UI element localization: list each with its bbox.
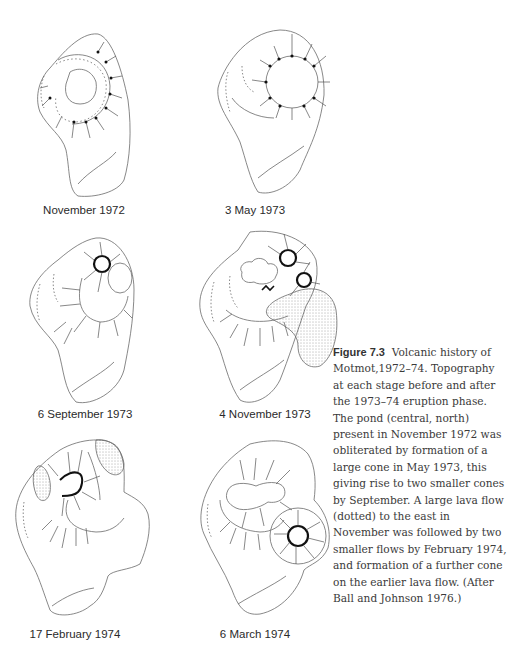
map-panel-17-february-1974: 17 February 1974 bbox=[0, 430, 190, 650]
panel-label: 17 February 1974 bbox=[20, 628, 130, 640]
island-map-4-november-1973 bbox=[180, 210, 340, 415]
panel-label: 4 November 1973 bbox=[190, 408, 340, 420]
island-map-17-february-1974 bbox=[0, 430, 190, 635]
figure-number: Figure 7.3 bbox=[333, 346, 385, 358]
map-panel-6-september-1973: 6 September 1973 bbox=[0, 210, 180, 430]
island-map-6-september-1973 bbox=[0, 210, 180, 415]
map-panel-6-march-1974: 6 March 1974 bbox=[180, 430, 340, 650]
island-map-3-may-1973 bbox=[180, 0, 330, 210]
island-map-6-march-1974 bbox=[180, 430, 340, 635]
panel-label: 6 September 1973 bbox=[20, 408, 150, 420]
figure-caption: Figure 7.3 Volcanic history of Motmot,19… bbox=[333, 344, 507, 607]
panel-label: 6 March 1974 bbox=[200, 628, 310, 640]
map-panel-november-1972: November 1972 bbox=[0, 0, 180, 220]
island-map-november-1972 bbox=[0, 0, 180, 210]
map-panel-4-november-1973: 4 November 1973 bbox=[180, 210, 340, 430]
caption-text: Volcanic history of Motmot,1972–74. Topo… bbox=[333, 346, 507, 604]
map-panel-3-may-1973: 3 May 1973 bbox=[180, 0, 330, 220]
